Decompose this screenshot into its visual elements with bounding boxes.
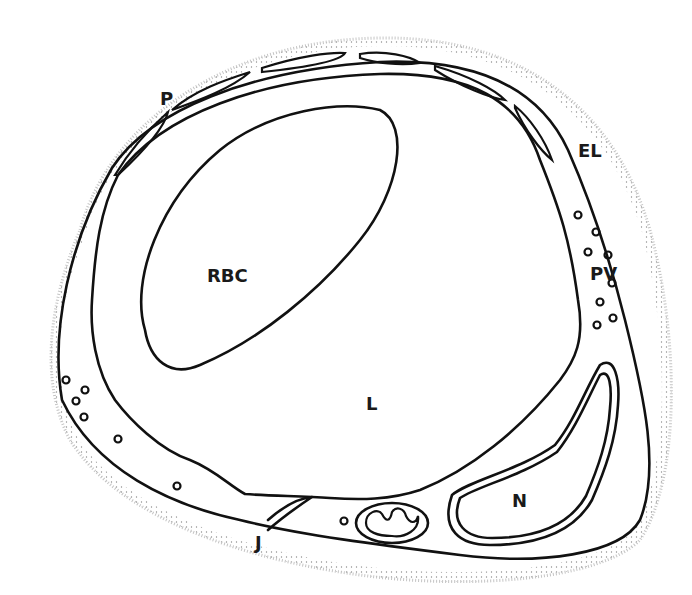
label-lumen: L (366, 395, 377, 413)
label-external-lamina: EL (578, 142, 602, 160)
label-nucleus: N (512, 492, 527, 510)
label-junction: J (255, 534, 262, 552)
label-red-blood-cell: RBC (207, 267, 248, 285)
label-pinocytotic-vesicles: PV (590, 265, 617, 283)
capillary-diagram (0, 0, 692, 595)
label-pericyte: P (160, 90, 173, 108)
